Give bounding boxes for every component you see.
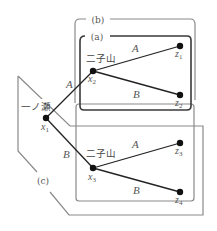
region-c-label: (c) [37, 176, 49, 186]
node-label-z1: z1 [174, 48, 183, 61]
edge-label-x1-x3: B [63, 148, 70, 160]
node-label-x2: x2 [87, 73, 96, 86]
edge-label-x3-z3: A [131, 138, 139, 150]
place-futagoyama-lower: 二子山 [86, 148, 116, 159]
edge-label-x3-z4: B [133, 184, 140, 196]
node-label-x3: x3 [87, 171, 96, 184]
node-label-x1: x1 [40, 121, 49, 134]
place-futagoyama-upper: 二子山 [86, 53, 116, 64]
tree-diagram: (b) (c) (a) A B A B A B 一ノ瀬 二子山 二子山 x1 x… [0, 0, 217, 231]
node-label-z4: z4 [174, 194, 183, 207]
place-ichinose: 一ノ瀬 [21, 101, 51, 112]
node-label-z2: z2 [174, 97, 183, 110]
node-label-z3: z3 [174, 145, 183, 158]
edge-label-x2-z2: B [133, 88, 140, 100]
edge-label-x2-z1: A [131, 42, 139, 54]
region-a-label: (a) [91, 32, 103, 42]
edge-label-x1-x2: A [65, 78, 73, 90]
region-b-label: (b) [92, 15, 105, 25]
